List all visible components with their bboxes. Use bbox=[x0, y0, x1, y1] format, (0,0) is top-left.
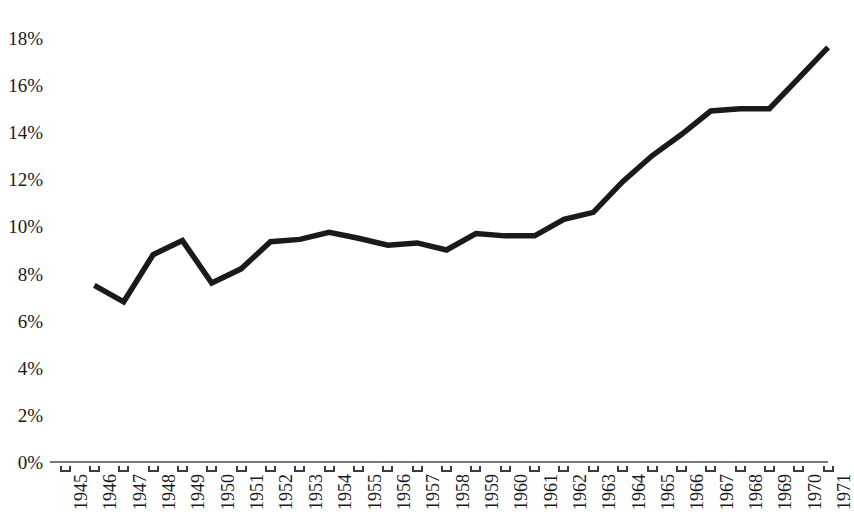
x-axis-tick-label: 1966 bbox=[688, 474, 706, 510]
y-axis-tick-label: 18% bbox=[0, 29, 43, 48]
x-axis-tick-label: 1956 bbox=[395, 474, 413, 510]
x-axis-tick-label: 1947 bbox=[131, 474, 149, 510]
y-axis-tick-label: 16% bbox=[0, 76, 43, 95]
x-axis-tick-mark bbox=[148, 466, 159, 472]
x-axis-tick-label: 1955 bbox=[366, 474, 384, 510]
x-axis-tick-mark bbox=[558, 466, 569, 472]
x-axis-tick-label: 1951 bbox=[248, 474, 266, 510]
x-axis-tick-label: 1961 bbox=[542, 474, 560, 510]
x-axis-tick-label: 1946 bbox=[101, 474, 119, 510]
x-axis-tick-mark bbox=[529, 466, 540, 472]
x-axis-tick-mark bbox=[470, 466, 481, 472]
x-axis-tick-label: 1954 bbox=[336, 474, 354, 510]
x-axis-tick-mark bbox=[705, 466, 716, 472]
x-axis-tick-mark bbox=[412, 466, 423, 472]
x-axis-tick-label: 1959 bbox=[483, 474, 501, 510]
x-axis-tick-label: 1962 bbox=[571, 474, 589, 510]
x-axis-tick-mark bbox=[617, 466, 628, 472]
y-axis-tick-label: 14% bbox=[0, 123, 43, 142]
data-series-line bbox=[94, 47, 828, 301]
y-axis-tick-label: 8% bbox=[0, 265, 43, 284]
y-axis-tick-label: 10% bbox=[0, 217, 43, 236]
x-axis-tick-label: 1953 bbox=[307, 474, 325, 510]
x-axis-tick-label: 1952 bbox=[277, 474, 295, 510]
x-axis-tick-label: 1969 bbox=[776, 474, 794, 510]
x-axis-tick-mark bbox=[89, 466, 100, 472]
x-axis-tick-label: 1950 bbox=[219, 474, 237, 510]
x-axis-tick-label: 1968 bbox=[747, 474, 765, 510]
x-axis-tick-label: 1964 bbox=[630, 474, 648, 510]
x-axis-tick-label: 1963 bbox=[600, 474, 618, 510]
series-group bbox=[94, 47, 828, 301]
x-axis-tick-label: 1970 bbox=[806, 474, 824, 510]
y-axis-tick-label: 12% bbox=[0, 170, 43, 189]
x-axis-tick-mark bbox=[793, 466, 804, 472]
x-axis-tick-mark bbox=[177, 466, 188, 472]
x-axis-tick-mark bbox=[294, 466, 305, 472]
x-axis-tick-label: 1957 bbox=[424, 474, 442, 510]
x-axis-tick-label: 1971 bbox=[835, 474, 853, 510]
x-axis-tick-label: 1967 bbox=[718, 474, 736, 510]
x-axis-tick-label: 1958 bbox=[454, 474, 472, 510]
x-axis-tick-mark bbox=[647, 466, 658, 472]
x-axis-tick-mark bbox=[236, 466, 247, 472]
y-axis-tick-label: 0% bbox=[0, 453, 43, 472]
x-axis-tick-mark bbox=[823, 466, 834, 472]
y-axis-tick-label: 4% bbox=[0, 359, 43, 378]
x-axis-tick-label: 1945 bbox=[72, 474, 90, 510]
x-axis-tick-mark bbox=[735, 466, 746, 472]
x-axis-tick-mark bbox=[118, 466, 129, 472]
x-axis-tick-label: 1965 bbox=[659, 474, 677, 510]
x-axis-tick-mark bbox=[265, 466, 276, 472]
x-axis-tick-mark bbox=[324, 466, 335, 472]
x-axis-tick-mark bbox=[676, 466, 687, 472]
x-axis-tick-mark bbox=[500, 466, 511, 472]
x-axis-tick-mark bbox=[588, 466, 599, 472]
x-axis-tick-mark bbox=[764, 466, 775, 472]
x-axis-tick-label: 1948 bbox=[160, 474, 178, 510]
x-axis-tick-label: 1949 bbox=[189, 474, 207, 510]
x-axis-tick-mark bbox=[353, 466, 364, 472]
x-axis-tick-mark bbox=[206, 466, 217, 472]
x-axis-tick-mark bbox=[441, 466, 452, 472]
x-axis-tick-label: 1960 bbox=[512, 474, 530, 510]
y-axis-tick-label: 2% bbox=[0, 406, 43, 425]
x-axis-tick-mark bbox=[60, 466, 71, 472]
x-axis-tick-mark bbox=[382, 466, 393, 472]
y-axis-tick-label: 6% bbox=[0, 312, 43, 331]
